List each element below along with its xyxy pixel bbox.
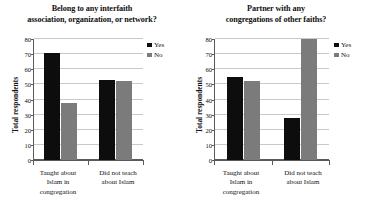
- x-axis-category-label: Did not teachabout Islam: [88, 169, 148, 197]
- legend-label-no: No: [341, 52, 350, 59]
- y-tick-label-60: 60: [24, 66, 31, 73]
- y-tick-label-80: 80: [24, 36, 31, 43]
- y-axis-title-left: Total respondents: [11, 60, 20, 150]
- y-tick-label-50: 50: [205, 81, 212, 88]
- y-tick-label-20: 20: [24, 126, 31, 133]
- x-axis-category-line: Islam in: [210, 178, 272, 187]
- chart-title-left-line1: Belong to any interfaith: [52, 4, 133, 13]
- legend-swatch-no: [334, 53, 339, 58]
- x-axis-category-line: congregation: [28, 188, 88, 197]
- legend-label-no: No: [154, 52, 163, 59]
- figure-canvas: Belong to any interfaith association, or…: [0, 0, 368, 215]
- y-tick-label-40: 40: [205, 96, 212, 103]
- chart-title-right-line1: Partner with any: [247, 4, 305, 13]
- x-axis-category-line: about Islam: [88, 178, 148, 187]
- chart-title-right-line2: congregations of other faiths?: [188, 15, 364, 26]
- x-axis-labels-right: Taught aboutIslam incongregationDid not …: [210, 169, 334, 197]
- legend-item-yes: Yes: [147, 40, 164, 50]
- plot-area-left: 01020304050607080: [33, 39, 143, 160]
- legend-left: YesNo: [147, 40, 164, 60]
- x-axis-category-line: Taught about: [28, 169, 88, 178]
- bar-no: [244, 81, 260, 160]
- bar-group: [272, 39, 329, 160]
- legend-swatch-yes: [334, 43, 339, 48]
- y-tick-label-10: 10: [205, 141, 212, 148]
- x-axis-category-line: Islam in: [28, 178, 88, 187]
- legend-label-yes: Yes: [341, 42, 351, 49]
- chart-title-left: Belong to any interfaith association, or…: [4, 4, 180, 25]
- x-axis-line: [33, 160, 143, 161]
- chart-panel-right: Partner with any congregations of other …: [184, 0, 368, 215]
- y-tick-label-20: 20: [205, 126, 212, 133]
- bar-no: [301, 39, 317, 160]
- chart-title-left-line2: association, organization, or network?: [4, 15, 180, 26]
- y-tick-label-70: 70: [205, 51, 212, 58]
- legend-swatch-yes: [147, 43, 152, 48]
- plot-area-right: 01020304050607080: [214, 39, 329, 160]
- x-axis-category-line: Did not teach: [88, 169, 148, 178]
- legend-item-no: No: [334, 50, 351, 60]
- y-tick-label-40: 40: [24, 96, 31, 103]
- bar-group: [89, 39, 144, 160]
- bar-yes: [284, 118, 300, 160]
- x-axis-band-right: [214, 160, 329, 165]
- bar-yes: [99, 80, 115, 160]
- x-axis-category-label: Taught aboutIslam incongregation: [210, 169, 272, 197]
- legend-label-yes: Yes: [154, 42, 164, 49]
- bar-yes: [227, 77, 243, 160]
- x-axis-separator: [143, 160, 144, 165]
- bar-group-container: [34, 39, 143, 160]
- y-tick-label-10: 10: [24, 141, 31, 148]
- x-axis-category-line: Taught about: [210, 169, 272, 178]
- legend-item-yes: Yes: [334, 40, 351, 50]
- chart-title-right: Partner with any congregations of other …: [188, 4, 364, 25]
- legend-item-no: No: [147, 50, 164, 60]
- legend-right: YesNo: [334, 40, 351, 60]
- x-axis-category-label: Taught aboutIslam incongregation: [28, 169, 88, 197]
- bar-group: [34, 39, 89, 160]
- x-axis-labels-left: Taught aboutIslam incongregationDid not …: [28, 169, 148, 197]
- y-tick-label-70: 70: [24, 51, 31, 58]
- bar-group-container: [215, 39, 329, 160]
- bar-no: [61, 103, 77, 160]
- x-axis-band-left: [33, 160, 143, 165]
- y-tick-label-30: 30: [205, 111, 212, 118]
- y-tick-label-50: 50: [24, 81, 31, 88]
- y-axis-title-right: Total respondents: [195, 60, 204, 150]
- y-tick-label-60: 60: [205, 66, 212, 73]
- bar-no: [116, 81, 132, 160]
- bar-group: [215, 39, 272, 160]
- y-tick-label-30: 30: [24, 111, 31, 118]
- legend-swatch-no: [147, 53, 152, 58]
- x-axis-line: [214, 160, 329, 161]
- x-axis-category-line: congregation: [210, 188, 272, 197]
- x-axis-category-line: Did not teach: [272, 169, 334, 178]
- x-axis-category-label: Did not teachabout Islam: [272, 169, 334, 197]
- x-axis-separator: [329, 160, 330, 165]
- chart-panel-left: Belong to any interfaith association, or…: [0, 0, 184, 215]
- y-tick-label-80: 80: [205, 36, 212, 43]
- bar-yes: [44, 53, 60, 160]
- x-axis-category-line: about Islam: [272, 178, 334, 187]
